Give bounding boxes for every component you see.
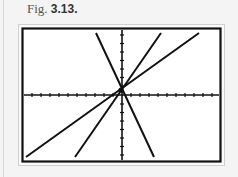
intersection-point xyxy=(118,87,123,92)
calculator-graph xyxy=(0,0,238,177)
